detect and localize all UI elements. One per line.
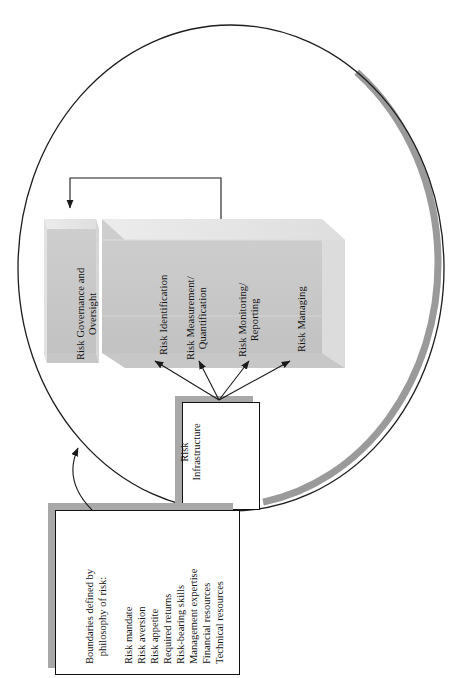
governance-block-label: Risk Governance and Oversight [75,268,100,360]
diagram-canvas: Risk Governance and Oversight Risk Ident… [0,0,452,678]
risk-infrastructure-label: Risk Infrastructure [179,409,204,495]
boundaries-item-5: Management expertise [187,569,200,664]
infra-to-identification-arrow [155,361,219,400]
boundaries-item-4: Risk-bearing skills [174,585,187,664]
governance-block-corner [44,219,47,363]
bracket-to-governance [70,178,221,219]
boundaries-to-framework-arrow [73,448,92,510]
infra-to-measurement-arrow [199,361,219,400]
risk-process-block-front [102,219,322,353]
pillar-label-identification: Risk Identification [158,275,170,355]
risk-process-block [102,219,345,368]
boundaries-of-risk-philosophy[interactable]: Boundaries defined by philosophy of risk… [55,510,240,675]
risk-process-block-body [102,353,345,368]
boundaries-item-0: Risk mandate [122,607,135,664]
boundaries-heading: Boundaries defined by philosophy of risk… [83,569,109,664]
infra-to-managing-arrow [219,361,290,400]
risk-infrastructure[interactable]: Risk Infrastructure [182,402,260,510]
governance-block-bevel [44,219,99,229]
boundaries-item-3: Required returns [161,594,174,664]
pillar-label-measurement: Risk Measurement/ Quantification [185,276,210,360]
risk-process-block-bevel [102,219,345,240]
infra-to-monitoring-arrow [219,361,249,400]
boundaries-item-2: Risk appetite [148,609,161,664]
pillar-label-monitoring: Risk Monitoring/ Reporting [237,283,262,357]
boundaries-item-1: Risk aversion [135,607,148,664]
risk-process-block-top-face [322,219,345,368]
boundaries-item-6: Financial resources [200,583,213,664]
boundaries-item-7: Technical resources [213,581,226,664]
infrastructure-fan-arrows [155,361,290,400]
pillar-label-managing: Risk Managing [296,286,308,352]
